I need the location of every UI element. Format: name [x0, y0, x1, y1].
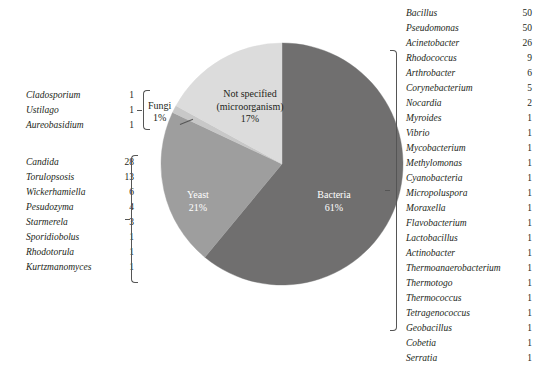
- genus-name: Cladosporium: [26, 88, 118, 103]
- genus-count: 1: [510, 276, 532, 291]
- yeast-list-row: Candida28: [26, 155, 134, 170]
- yeast-bracket: [131, 155, 138, 283]
- fungi-genus-list: Cladosporium1Ustilago1Aureobasidium1: [26, 88, 134, 133]
- genus-count: 1: [510, 171, 532, 186]
- genus-name: Starmerela: [26, 215, 118, 230]
- bacteria-list-row: Methylomonas1: [406, 156, 532, 171]
- fungi-group-label-name: Fungi: [148, 100, 171, 112]
- genus-name: Rhodotorula: [26, 245, 118, 260]
- bacteria-list-row: Actinobacter1: [406, 246, 532, 261]
- genus-name: Wickerhamiella: [26, 185, 118, 200]
- genus-count: 1: [118, 118, 134, 133]
- yeast-list-row: Rhodotorula1: [26, 245, 134, 260]
- fungi-genus-list-body: Cladosporium1Ustilago1Aureobasidium1: [26, 88, 134, 133]
- fungi-group-label: Fungi 1%: [148, 100, 171, 124]
- genus-name: Aureobasidium: [26, 118, 118, 133]
- genus-name: Kurtzmanomyces: [26, 260, 118, 275]
- genus-name: Nocardia: [406, 96, 510, 111]
- genus-count: 50: [510, 6, 532, 21]
- yeast-list-row: Wickerhamiella6: [26, 185, 134, 200]
- genus-name: Torulopsosis: [26, 170, 118, 185]
- yeast-list-row: Kurtzmanomyces1: [26, 260, 134, 275]
- genus-count: 1: [510, 351, 532, 366]
- genus-name: Vibrio: [406, 126, 510, 141]
- genus-count: 2: [510, 96, 532, 111]
- bacteria-list-row: Geobacillus1: [406, 321, 532, 336]
- genus-name: Cyanobacteria: [406, 171, 510, 186]
- genus-name: Ustilago: [26, 103, 118, 118]
- pie-chart: [160, 42, 404, 286]
- genus-name: Bacillus: [406, 6, 510, 21]
- genus-name: Actinobacter: [406, 246, 510, 261]
- bacteria-list-row: Cobetia1: [406, 336, 532, 351]
- bacteria-list-row: Acinetobacter26: [406, 36, 532, 51]
- bacteria-list-row: Bacillus50: [406, 6, 532, 21]
- bacteria-list-row: Thermotogo1: [406, 276, 532, 291]
- bacteria-list-row: Nocardia2: [406, 96, 532, 111]
- genus-name: Lactobacillus: [406, 231, 510, 246]
- genus-name: Serratia: [406, 351, 510, 366]
- genus-name: Cobetia: [406, 336, 510, 351]
- genus-count: 1: [510, 321, 532, 336]
- genus-count: 1: [510, 156, 532, 171]
- genus-name: Micropoluspora: [406, 186, 510, 201]
- genus-name: Pesudozyma: [26, 200, 118, 215]
- bacteria-list-row: Micropoluspora1: [406, 186, 532, 201]
- genus-name: Thermoanaerobacterium: [406, 261, 510, 276]
- yeast-list-row: Sporidiobolus1: [26, 230, 134, 245]
- genus-count: 1: [510, 261, 532, 276]
- genus-count: 1: [118, 88, 134, 103]
- genus-count: 1: [118, 103, 134, 118]
- genus-name: Mycobacterium: [406, 141, 510, 156]
- genus-count: 1: [510, 141, 532, 156]
- fungi-bracket-tick: [137, 110, 142, 111]
- yeast-list-row: Pesudozyma4: [26, 200, 134, 215]
- genus-name: Corynebacterium: [406, 81, 510, 96]
- genus-name: Acinetobacter: [406, 36, 510, 51]
- yeast-genus-list: Candida28Torulopsosis13Wickerhamiella6Pe…: [26, 155, 134, 275]
- fungi-list-row: Aureobasidium1: [26, 118, 134, 133]
- genus-name: Thermococcus: [406, 291, 510, 306]
- bacteria-genus-list-body: Bacillus50Pseudomonas50Acinetobacter26Rh…: [406, 6, 532, 366]
- genus-count: 1: [510, 216, 532, 231]
- genus-name: Candida: [26, 155, 118, 170]
- pie-chart-figure: Not specified (microorganism) 17% Yeast …: [0, 0, 540, 379]
- yeast-bracket-tick: [125, 219, 130, 220]
- bacteria-list-row: Mycobacterium1: [406, 141, 532, 156]
- bacteria-list-row: Rhodococcus9: [406, 51, 532, 66]
- bacteria-list-row: Serratia1: [406, 351, 532, 366]
- genus-name: Moraxella: [406, 201, 510, 216]
- genus-name: Tetragenococcus: [406, 306, 510, 321]
- bacteria-bracket: [390, 50, 397, 331]
- genus-count: 1: [510, 231, 532, 246]
- genus-count: 1: [510, 246, 532, 261]
- fungi-list-row: Ustilago1: [26, 103, 134, 118]
- genus-name: Sporidiobolus: [26, 230, 118, 245]
- pie-chart-svg: [160, 42, 404, 286]
- genus-name: Pseudomonas: [406, 21, 510, 36]
- genus-name: Rhodococcus: [406, 51, 510, 66]
- bacteria-list-row: Thermococcus1: [406, 291, 532, 306]
- bacteria-genus-list: Bacillus50Pseudomonas50Acinetobacter26Rh…: [406, 6, 532, 366]
- bacteria-list-row: Flavobacterium1: [406, 216, 532, 231]
- fungi-list-row: Cladosporium1: [26, 88, 134, 103]
- yeast-list-row: Starmerela3: [26, 215, 134, 230]
- fungi-group-label-percent: 1%: [148, 112, 171, 124]
- genus-count: 1: [510, 126, 532, 141]
- genus-count: 1: [510, 186, 532, 201]
- genus-name: Arthrobacter: [406, 66, 510, 81]
- genus-count: 1: [510, 306, 532, 321]
- genus-count: 5: [510, 81, 532, 96]
- genus-name: Methylomonas: [406, 156, 510, 171]
- bacteria-list-row: Arthrobacter6: [406, 66, 532, 81]
- genus-count: 6: [510, 66, 532, 81]
- bacteria-list-row: Lactobacillus1: [406, 231, 532, 246]
- genus-name: Geobacillus: [406, 321, 510, 336]
- genus-count: 1: [510, 201, 532, 216]
- genus-count: 26: [510, 36, 532, 51]
- genus-count: 1: [510, 291, 532, 306]
- genus-name: Thermotogo: [406, 276, 510, 291]
- bacteria-list-row: Pseudomonas50: [406, 21, 532, 36]
- bacteria-list-row: Myroides1: [406, 111, 532, 126]
- yeast-genus-list-body: Candida28Torulopsosis13Wickerhamiella6Pe…: [26, 155, 134, 275]
